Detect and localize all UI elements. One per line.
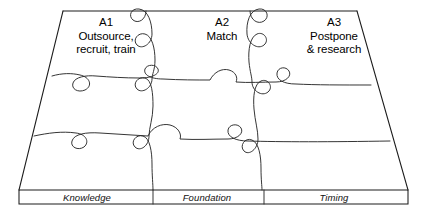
puzzle-diagram-figure: A1 Outsource, recruit, train A2 Match A3… — [0, 0, 426, 215]
piece-desc-a3-line2: & research — [274, 43, 394, 57]
seam-row2 — [34, 124, 390, 148]
band-label-foundation: Foundation — [156, 192, 258, 203]
piece-label-a2: A2 Match — [167, 16, 277, 43]
piece-desc-a1-line2: recruit, train — [46, 43, 166, 57]
piece-label-a3: A3 Postpone & research — [274, 16, 394, 57]
piece-desc-a2-line1: Match — [167, 30, 277, 44]
piece-desc-a3-line1: Postpone — [274, 30, 394, 44]
band-label-timing: Timing — [272, 192, 396, 203]
band-label-knowledge: Knowledge — [28, 192, 146, 203]
piece-desc-a1-line1: Outsource, — [46, 30, 166, 44]
piece-label-a1: A1 Outsource, recruit, train — [46, 16, 166, 57]
horizontal-seams — [34, 65, 390, 148]
piece-code-a3: A3 — [274, 16, 394, 30]
seam-row1 — [52, 65, 371, 91]
piece-code-a1: A1 — [46, 16, 166, 30]
piece-code-a2: A2 — [167, 16, 277, 30]
